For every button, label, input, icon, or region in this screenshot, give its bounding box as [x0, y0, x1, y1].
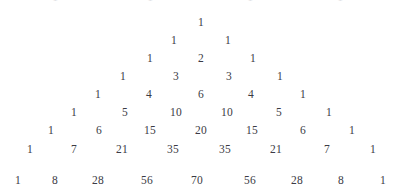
binomial-coefficient: 1 [326, 104, 332, 120]
binomial-coefficient: 15 [144, 122, 156, 138]
binomial-coefficient: 21 [270, 141, 282, 157]
binomial-coefficient: 56 [141, 172, 153, 188]
triangle-row-4: 14641 [0, 86, 404, 102]
binomial-coefficient: 15 [246, 122, 258, 138]
binomial-coefficient: 35 [219, 141, 231, 157]
binomial-coefficient: 1 [225, 32, 231, 48]
binomial-coefficient: 2 [198, 50, 204, 66]
triangle-row-0: 1 [0, 14, 404, 30]
binomial-coefficient: 5 [276, 104, 282, 120]
clipped-top-glyph: 1 [247, 0, 253, 3]
binomial-coefficient: 28 [92, 172, 104, 188]
triangle-row-8: 18285670562881 [0, 172, 404, 188]
binomial-coefficient: 4 [248, 86, 254, 102]
binomial-coefficient: 28 [291, 172, 303, 188]
triangle-row-1: 11 [0, 32, 404, 48]
binomial-coefficient: 3 [173, 68, 179, 84]
binomial-coefficient: 21 [116, 141, 128, 157]
binomial-coefficient: 1 [147, 50, 153, 66]
triangle-row-3: 1331 [0, 68, 404, 84]
binomial-coefficient: 1 [370, 141, 376, 157]
binomial-coefficient: 56 [244, 172, 256, 188]
binomial-coefficient: 1 [300, 86, 306, 102]
binomial-coefficient: 70 [191, 172, 203, 188]
binomial-coefficient: 1 [71, 104, 77, 120]
binomial-coefficient: 6 [198, 86, 204, 102]
binomial-coefficient: 8 [338, 172, 344, 188]
clipped-top-row: 1111 [0, 0, 404, 3]
binomial-coefficient: 1 [349, 122, 355, 138]
binomial-coefficient: 1 [15, 172, 21, 188]
clipped-top-glyph: 1 [337, 0, 343, 3]
binomial-coefficient: 7 [71, 141, 77, 157]
triangle-row-6: 1615201561 [0, 122, 404, 138]
binomial-coefficient: 1 [277, 68, 283, 84]
binomial-coefficient: 10 [221, 104, 233, 120]
binomial-coefficient: 1 [95, 86, 101, 102]
binomial-coefficient: 8 [52, 172, 58, 188]
binomial-coefficient: 1 [171, 32, 177, 48]
binomial-coefficient: 1 [380, 172, 386, 188]
triangle-row-2: 121 [0, 50, 404, 66]
binomial-coefficient: 10 [170, 104, 182, 120]
triangle-row-7: 172135352171 [0, 141, 404, 157]
binomial-coefficient: 1 [27, 141, 33, 157]
binomial-coefficient: 20 [195, 122, 207, 138]
binomial-coefficient: 7 [324, 141, 330, 157]
binomial-coefficient: 35 [167, 141, 179, 157]
clipped-top-glyph: 1 [147, 0, 153, 3]
pascals-triangle-figure: 1111 11112113311464115101051161520156117… [0, 0, 404, 193]
binomial-coefficient: 6 [300, 122, 306, 138]
binomial-coefficient: 5 [122, 104, 128, 120]
binomial-coefficient: 3 [226, 68, 232, 84]
binomial-coefficient: 1 [250, 50, 256, 66]
binomial-coefficient: 1 [198, 14, 204, 30]
binomial-coefficient: 6 [96, 122, 102, 138]
binomial-coefficient: 1 [120, 68, 126, 84]
clipped-top-glyph: 1 [52, 0, 58, 3]
binomial-coefficient: 4 [146, 86, 152, 102]
triangle-row-5: 15101051 [0, 104, 404, 120]
binomial-coefficient: 1 [48, 122, 54, 138]
